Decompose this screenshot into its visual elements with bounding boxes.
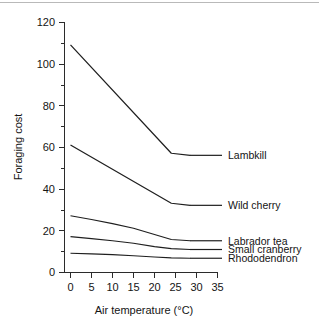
line-chart-plot: 0 20 40 60 80 100 120 0 5 10 15 20 25 30… [0, 0, 319, 329]
series-label-layer: LambkillWild cherryLabrador teaSmall cra… [190, 149, 302, 264]
x-tick-label-0: 0 [67, 281, 73, 293]
y-axis-major-ticks [59, 23, 65, 273]
series-label-rhododendron: Rhododendron [228, 252, 298, 264]
series-label-wild-cherry: Wild cherry [228, 199, 281, 211]
x-tick-label-35: 35 [211, 281, 223, 293]
y-tick-label-80: 80 [43, 100, 55, 112]
x-tick-label-10: 10 [106, 281, 118, 293]
y-tick-label-100: 100 [37, 58, 55, 70]
series-layer [71, 45, 191, 258]
x-axis-title: Air temperature (°C) [95, 304, 194, 316]
x-axis-ticks [71, 273, 218, 279]
y-tick-label-120: 120 [37, 16, 55, 28]
series-line-labrador-tea [71, 216, 191, 241]
series-line-small-cranberry [71, 237, 191, 250]
x-tick-label-15: 15 [127, 281, 139, 293]
y-tick-label-20: 20 [43, 225, 55, 237]
y-tick-label-60: 60 [43, 141, 55, 153]
y-axis-title: Foraging cost [12, 114, 24, 181]
x-tick-label-25: 25 [169, 281, 181, 293]
series-line-lambkill [71, 45, 191, 155]
series-line-rhododendron [71, 253, 191, 258]
x-tick-label-30: 30 [190, 281, 202, 293]
x-tick-label-20: 20 [148, 281, 160, 293]
y-tick-label-0: 0 [49, 266, 55, 278]
x-tick-label-5: 5 [88, 281, 94, 293]
y-tick-label-40: 40 [43, 183, 55, 195]
series-label-lambkill: Lambkill [228, 149, 267, 161]
foraging-cost-chart-figure: 0 20 40 60 80 100 120 0 5 10 15 20 25 30… [0, 0, 319, 329]
